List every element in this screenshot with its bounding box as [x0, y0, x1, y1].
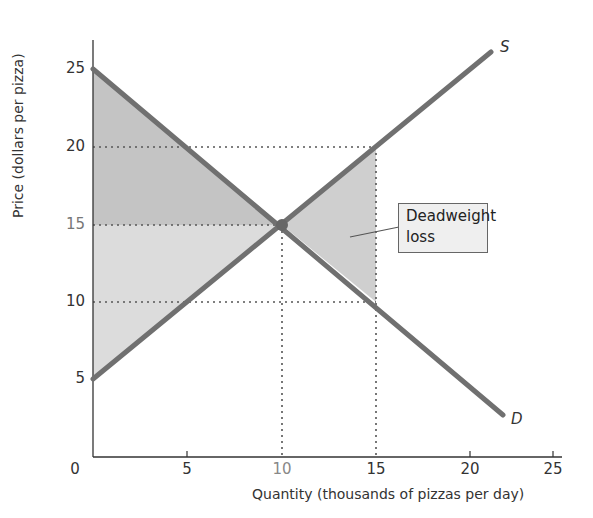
y-tick-20: 20 [55, 137, 85, 155]
x-tick-10: 10 [267, 460, 297, 478]
x-tick-15: 15 [361, 460, 391, 478]
deadweight-loss-callout: Deadweight loss [398, 203, 488, 253]
chart-plot [0, 0, 593, 518]
y-tick-5: 5 [55, 369, 85, 387]
x-tick-20: 20 [455, 460, 485, 478]
y-tick-25: 25 [55, 59, 85, 77]
deadweight-loss-area [282, 147, 376, 302]
x-ticks [187, 451, 553, 457]
x-tick-0: 0 [60, 460, 90, 478]
y-axis-title: Price (dollars per pizza) [10, 58, 26, 218]
x-tick-5: 5 [172, 460, 202, 478]
callout-line-2: loss [406, 227, 480, 248]
callout-line-1: Deadweight [406, 206, 480, 227]
demand-label: D [511, 410, 523, 428]
x-axis-title: Quantity (thousands of pizzas per day) [252, 486, 524, 502]
y-tick-15: 15 [55, 215, 85, 233]
y-tick-10: 10 [55, 292, 85, 310]
supply-label: S [500, 38, 510, 56]
equilibrium-point [276, 219, 288, 231]
x-tick-25: 25 [538, 460, 568, 478]
